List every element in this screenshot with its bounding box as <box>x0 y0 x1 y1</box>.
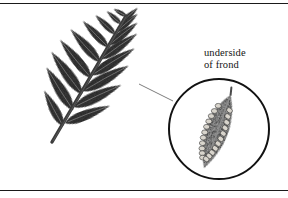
sorus-13 <box>200 135 207 140</box>
figure-container: underside of frond <box>0 0 288 198</box>
magnifier-callout <box>169 79 269 179</box>
callout-label: underside of frond <box>204 47 288 70</box>
sorus-7 <box>206 119 213 124</box>
sorus-9 <box>203 124 210 129</box>
illustration-svg <box>0 0 288 198</box>
callout-label-line2: of frond <box>204 59 288 71</box>
sorus-3 <box>211 108 218 113</box>
sorus-17 <box>199 146 206 151</box>
frond-rachis-highlight <box>53 17 126 141</box>
sorus-15 <box>199 141 206 146</box>
callout-label-line1: underside <box>204 47 288 59</box>
leaflet-midvein <box>96 16 113 33</box>
sorus-11 <box>201 130 208 135</box>
sorus-1 <box>215 103 222 108</box>
fern-frond <box>40 6 140 142</box>
frond-leaflets <box>40 6 140 128</box>
sorus-5 <box>208 113 215 118</box>
callout-leader-line <box>139 84 173 101</box>
